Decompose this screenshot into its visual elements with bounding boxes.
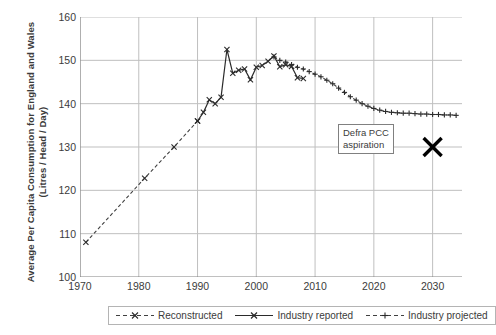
y-tick-110: 110 xyxy=(59,228,76,240)
legend-item-industry-reported: Industry reported xyxy=(235,310,353,321)
y-tick-150: 150 xyxy=(58,54,76,66)
y-axis-title: Average Per Capita Consumption for Engla… xyxy=(25,16,49,288)
legend-label-industry-reported: Industry reported xyxy=(277,310,353,321)
plot-area: 160 150 140 130 120 110 100 1970 1980 19… xyxy=(80,17,462,277)
y-tick-160: 160 xyxy=(58,11,76,23)
defra-pcc-aspiration-line1: Defra PCC xyxy=(343,127,389,139)
defra-pcc-aspiration-label: Defra PCC aspiration xyxy=(338,124,394,154)
x-tick-1970: 1970 xyxy=(68,280,91,292)
series-industry-projected xyxy=(271,54,458,118)
x-tick-2000: 2000 xyxy=(245,280,268,292)
legend-key-industry-projected-icon xyxy=(366,310,404,321)
legend-label-industry-projected: Industry projected xyxy=(408,310,488,321)
x-tick-1990: 1990 xyxy=(186,280,209,292)
series-industry-reported xyxy=(195,47,306,124)
y-tick-130: 130 xyxy=(58,141,76,153)
chart-legend: Reconstructed Industry reported Industry… xyxy=(108,306,496,325)
chart-canvas xyxy=(80,17,462,277)
legend-key-reconstructed-icon xyxy=(116,310,154,321)
x-tick-2010: 2010 xyxy=(303,280,326,292)
y-tick-140: 140 xyxy=(58,98,76,110)
legend-item-reconstructed: Reconstructed xyxy=(116,310,222,321)
legend-key-industry-reported-icon xyxy=(235,310,273,321)
gridlines xyxy=(80,17,462,277)
legend-item-industry-projected: Industry projected xyxy=(366,310,488,321)
legend-label-reconstructed: Reconstructed xyxy=(158,310,222,321)
defra-pcc-aspiration-line2: aspiration xyxy=(343,139,389,151)
series-reconstructed xyxy=(83,118,200,245)
y-tick-120: 120 xyxy=(58,184,76,196)
x-tick-1980: 1980 xyxy=(127,280,150,292)
x-tick-2030: 2030 xyxy=(421,280,444,292)
x-tick-2020: 2020 xyxy=(362,280,385,292)
